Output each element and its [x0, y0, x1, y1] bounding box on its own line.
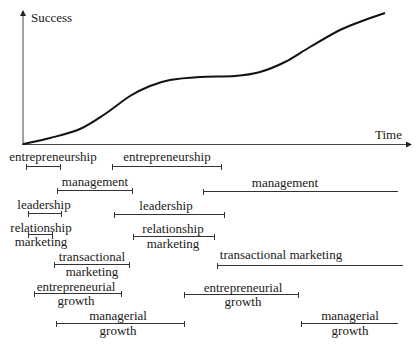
- phase-label: entrepreneurship: [9, 150, 96, 164]
- phase-range-bar: [203, 191, 398, 192]
- phase-label-line2: growth: [225, 295, 262, 309]
- success-curve: [23, 13, 385, 144]
- x-axis-label: Time: [375, 128, 402, 142]
- success-time-diagram: Success Time entrepreneurshipentrepreneu…: [0, 0, 418, 349]
- phase-label-line2: marketing: [147, 237, 200, 251]
- phase-label: management: [252, 176, 318, 190]
- phase-label: leadership: [139, 199, 192, 213]
- phase-range-bar: [26, 166, 61, 167]
- phase-label-line2: growth: [58, 294, 95, 308]
- phase-label: relationship: [142, 222, 203, 236]
- phase-label: transactional marketing: [220, 248, 342, 262]
- phase-label: entrepreneurial: [204, 281, 283, 295]
- phase-label: entrepreneurship: [123, 150, 210, 164]
- phase-range-bar: [112, 166, 222, 167]
- phase-label: management: [62, 175, 128, 189]
- phase-label: transactional: [59, 250, 125, 264]
- phase-label-line2: growth: [332, 324, 369, 338]
- y-axis-label: Success: [31, 11, 72, 25]
- phase-label-line2: growth: [100, 324, 137, 338]
- phase-label: entrepreneurial: [37, 280, 116, 294]
- phase-label: leadership: [17, 198, 70, 212]
- phase-label-line2: marketing: [66, 265, 119, 279]
- phase-label: relationship: [10, 221, 71, 235]
- phase-label: managerial: [89, 309, 147, 323]
- phase-range-bar: [114, 214, 225, 215]
- phase-label-line2: marketing: [15, 235, 68, 249]
- phase-range-bar: [57, 190, 133, 191]
- phase-range-bar: [217, 265, 403, 266]
- phase-label: managerial: [321, 309, 379, 323]
- phase-range-bar: [28, 213, 62, 214]
